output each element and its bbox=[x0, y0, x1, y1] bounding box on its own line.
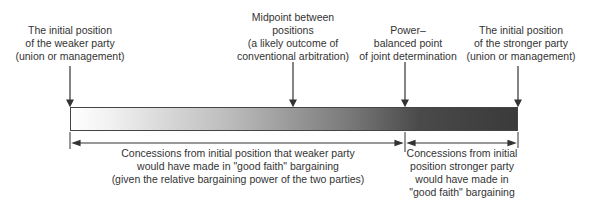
label-line: would have made in "good faith" bargaini… bbox=[108, 160, 368, 173]
label-line: Concessions from initial position that w… bbox=[108, 147, 368, 160]
label-line: position stronger party bbox=[404, 160, 520, 173]
arrow-down-icon bbox=[290, 62, 296, 106]
double-arrow-icon bbox=[408, 141, 515, 146]
weaker-concessions-label: Concessions from initial position that w… bbox=[108, 147, 368, 186]
double-arrow-icon bbox=[73, 141, 402, 146]
arrow-down-icon bbox=[402, 62, 408, 106]
arrow-down-icon bbox=[67, 66, 73, 106]
label-line: "good faith" bargaining bbox=[404, 186, 520, 199]
label-line: would have made in bbox=[404, 173, 520, 186]
label-line: (given the relative bargaining power of … bbox=[108, 173, 368, 186]
stronger-concessions-label: Concessions from initial position strong… bbox=[404, 147, 520, 199]
label-line: Concessions from initial bbox=[404, 147, 520, 160]
arrow-down-icon bbox=[515, 66, 521, 106]
